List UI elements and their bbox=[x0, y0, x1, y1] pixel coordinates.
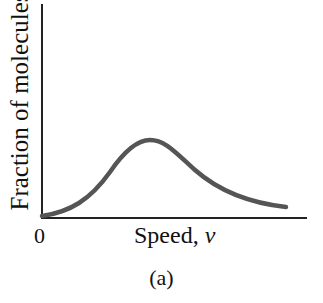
chart-plot bbox=[0, 0, 323, 303]
figure-caption: (a) bbox=[0, 265, 323, 291]
distribution-curve bbox=[42, 140, 286, 216]
x-tick-zero: 0 bbox=[34, 223, 45, 249]
y-axis-label: Fraction of molecules bbox=[5, 16, 35, 211]
x-axis-variable: v bbox=[205, 222, 216, 248]
x-axis-label-text: Speed, bbox=[134, 222, 205, 248]
x-axis-label: Speed, v bbox=[134, 222, 215, 249]
